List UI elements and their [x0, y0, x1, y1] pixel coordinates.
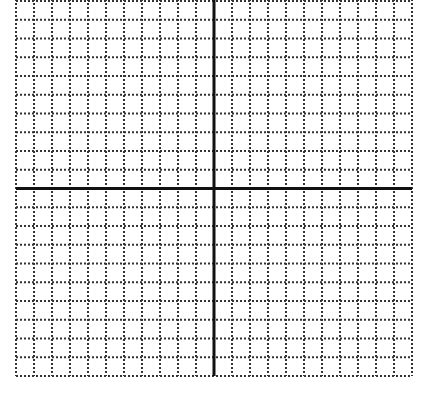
coordinate-grid: [0, 0, 427, 398]
